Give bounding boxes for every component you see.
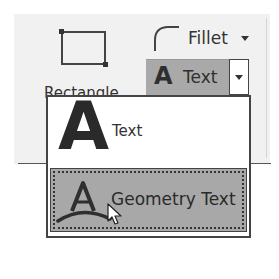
rectangle-grip-icon <box>103 62 108 67</box>
fillet-label: Fillet <box>188 28 228 48</box>
text-icon: A <box>58 94 109 160</box>
text-icon: A <box>154 62 173 90</box>
menu-item-label: Text <box>112 122 142 140</box>
rectangle-grip-icon <box>59 29 64 34</box>
menu-item-text[interactable]: A Text <box>50 98 247 166</box>
text-split-label: Text <box>183 67 217 87</box>
mouse-cursor-icon <box>107 203 123 227</box>
text-split-dropdown-button[interactable] <box>229 59 249 95</box>
chevron-down-icon[interactable] <box>241 36 249 41</box>
menu-item-label: Geometry Text <box>111 189 236 209</box>
ribbon-panel-edge <box>266 18 267 158</box>
menu-item-geometry-text[interactable]: Geometry Text <box>50 168 247 232</box>
chevron-down-icon <box>235 75 243 80</box>
text-split-button[interactable]: A Text <box>146 59 229 96</box>
fillet-icon <box>153 24 181 52</box>
rectangle-icon <box>61 31 106 65</box>
geometry-text-icon <box>56 177 114 225</box>
ribbon-divider-right <box>251 163 271 164</box>
ribbon-divider-left <box>18 163 48 164</box>
text-dropdown-menu: A Text Geometry Text <box>46 95 251 238</box>
